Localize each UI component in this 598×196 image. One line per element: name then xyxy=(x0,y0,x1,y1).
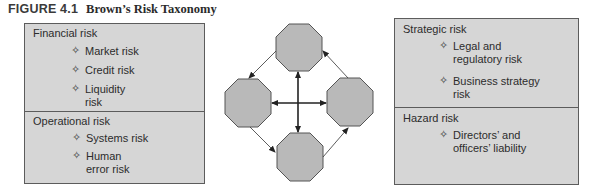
octagon-top xyxy=(276,24,322,71)
arrow-top-to-left xyxy=(249,51,276,78)
arrow-right-to-top xyxy=(323,51,348,78)
risk-cycle-diagram xyxy=(0,0,598,196)
octagon-right xyxy=(327,78,373,126)
arrow-bottom-to-right xyxy=(323,128,348,157)
octagon-left xyxy=(225,79,271,127)
arrow-left-to-bottom xyxy=(250,127,275,152)
octagon-bottom xyxy=(277,133,323,181)
